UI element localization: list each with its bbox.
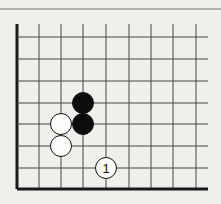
white-stone <box>51 136 72 157</box>
go-board-diagram: 1 <box>0 0 221 204</box>
black-stone-icon <box>73 114 94 135</box>
white-stone-icon <box>51 114 72 135</box>
black-stone <box>73 93 94 114</box>
white-stone-icon <box>51 136 72 157</box>
black-stone <box>73 114 94 135</box>
black-stone-icon <box>73 93 94 114</box>
white-stone-1: 1 <box>96 158 117 179</box>
white-stone <box>51 114 72 135</box>
move-number-label: 1 <box>102 161 109 176</box>
